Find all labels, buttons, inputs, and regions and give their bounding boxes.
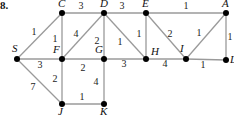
node-D	[101, 10, 107, 16]
edge-weight-G-H: 3	[122, 58, 127, 69]
edge-weight-E-I: 2	[168, 28, 173, 39]
edge-weight-S-J: 7	[31, 81, 36, 92]
edge-weight-E-A: 1	[184, 0, 189, 11]
edge-weight-F-G: 2	[81, 62, 86, 73]
edge-weight-D-F: 4	[74, 28, 79, 39]
node-S	[14, 56, 20, 62]
node-C	[59, 10, 65, 16]
edge-weight-D-H: 1	[118, 36, 123, 47]
node-F	[59, 56, 65, 62]
node-E	[143, 10, 149, 16]
edge-weight-S-C: 1	[32, 26, 37, 37]
edge-weight-J-K: 1	[80, 91, 85, 102]
edge-weight-S-F: 3	[38, 59, 43, 70]
node-G	[101, 56, 107, 62]
edge-weight-D-E: 3	[120, 0, 125, 11]
edge-I-L	[186, 59, 226, 60]
edge-weight-A-I: 1	[197, 27, 202, 38]
node-H	[143, 56, 149, 62]
node-L	[223, 57, 229, 63]
node-label-L: L	[229, 53, 234, 65]
edge-weight-I-L: 1	[201, 59, 206, 70]
edge-A-I	[186, 13, 226, 59]
node-label-A: A	[221, 0, 229, 9]
edge-weight-F-J: 2	[53, 73, 58, 84]
weighted-graph: 137314213121112341241 SCDEAFGHILJK	[0, 0, 234, 116]
node-I	[183, 56, 189, 62]
node-label-E: E	[141, 0, 149, 9]
node-label-F: F	[52, 43, 60, 55]
node-label-K: K	[99, 105, 108, 116]
edge-weight-H-I: 4	[163, 58, 168, 69]
node-A	[223, 10, 229, 16]
node-label-C: C	[58, 0, 66, 9]
edge-weight-E-H: 1	[137, 28, 142, 39]
edge-weight-C-D: 3	[79, 0, 84, 11]
node-label-S: S	[12, 42, 18, 54]
node-label-D: D	[99, 0, 108, 9]
node-label-G: G	[95, 43, 103, 55]
edge-weight-A-L: 1	[228, 31, 233, 42]
node-label-H: H	[150, 45, 160, 57]
edge-weight-G-K: 4	[94, 76, 99, 87]
node-label-I: I	[179, 42, 185, 54]
